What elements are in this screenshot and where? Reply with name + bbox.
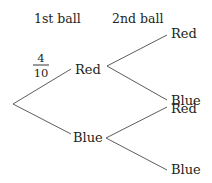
edge-root-blue (13, 104, 71, 134)
node-second-red-after-red: Red (171, 26, 197, 41)
edge-blue-blue (106, 138, 167, 170)
fraction-denominator: 10 (34, 66, 49, 80)
edge-blue-red (106, 107, 167, 138)
node-second-blue-after-blue: Blue (171, 162, 201, 177)
node-first-red: Red (75, 62, 101, 77)
header-first-ball: 1st ball (34, 11, 81, 26)
node-first-blue: Blue (73, 130, 103, 145)
probability-tree-diagram: 1st ball 2nd ball 4 10 Red Blue Red Blue… (0, 0, 212, 183)
node-second-red-after-blue: Red (171, 101, 197, 116)
header-second-ball: 2nd ball (112, 11, 163, 26)
edge-red-blue (107, 66, 167, 100)
fraction-numerator: 4 (37, 51, 44, 65)
edge-red-red (107, 35, 167, 66)
